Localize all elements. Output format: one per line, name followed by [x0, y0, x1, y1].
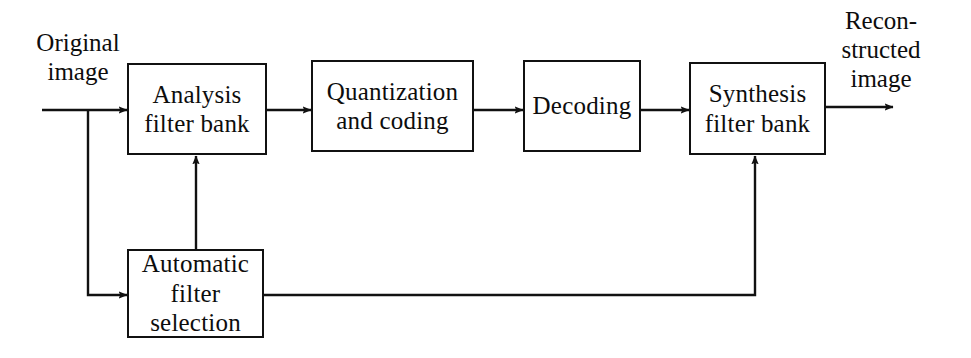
- node-analysis-filter-bank-line-1: Analysis: [152, 80, 241, 110]
- node-quantization-and-coding-line-1: Quantization: [327, 77, 459, 107]
- input-label: Original image: [22, 28, 134, 86]
- input-label-line-1: Original: [22, 28, 134, 57]
- connector-automatic-to-synthesis: [264, 156, 755, 295]
- node-automatic-filter-selection-line-1: Automatic: [142, 249, 249, 279]
- node-automatic-filter-selection[interactable]: Automatic filter selection: [127, 249, 264, 338]
- input-label-line-2: image: [22, 57, 134, 86]
- node-automatic-filter-selection-line-2: filter: [171, 279, 221, 309]
- node-synthesis-filter-bank-line-2: filter bank: [705, 109, 811, 139]
- node-automatic-filter-selection-line-3: selection: [150, 308, 241, 338]
- node-synthesis-filter-bank[interactable]: Synthesis filter bank: [689, 62, 826, 155]
- node-analysis-filter-bank-line-2: filter bank: [144, 109, 250, 139]
- connector-input-branch-to-automatic: [88, 110, 127, 295]
- output-label: Recon- structed image: [822, 6, 940, 93]
- block-diagram: Original image Recon- structed image Ana…: [0, 0, 971, 358]
- output-label-line-3: image: [822, 64, 940, 93]
- node-decoding-line-1: Decoding: [533, 91, 632, 121]
- node-synthesis-filter-bank-line-1: Synthesis: [709, 79, 807, 109]
- node-quantization-and-coding-line-2: and coding: [336, 106, 448, 136]
- output-label-line-1: Recon-: [822, 6, 940, 35]
- node-decoding[interactable]: Decoding: [523, 60, 641, 152]
- node-analysis-filter-bank[interactable]: Analysis filter bank: [127, 63, 267, 155]
- output-label-line-2: structed: [822, 35, 940, 64]
- node-quantization-and-coding[interactable]: Quantization and coding: [311, 60, 474, 152]
